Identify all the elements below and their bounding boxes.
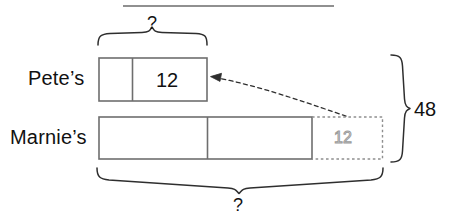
dashed-curved-arrow: [218, 78, 346, 116]
bar-model-diagram: Pete’s Marnie’s 12 12 ? ? 48: [0, 0, 449, 219]
bottom-brace: [97, 168, 383, 194]
diagram-graphics: [0, 0, 449, 219]
marnie-bar: [99, 117, 312, 159]
bottom-brace-label: ?: [233, 196, 243, 214]
pete-segment-2-value: 12: [156, 70, 178, 90]
marnie-ghost-segment-value: 12: [334, 130, 352, 146]
arrow-head: [211, 73, 222, 81]
right-brace-label: 48: [414, 99, 436, 119]
pete-bar: [99, 58, 207, 101]
right-brace: [391, 55, 410, 162]
pete-row-label: Pete’s: [28, 68, 84, 88]
top-brace-label: ?: [147, 14, 157, 32]
marnie-row-label: Marnie’s: [10, 127, 87, 147]
